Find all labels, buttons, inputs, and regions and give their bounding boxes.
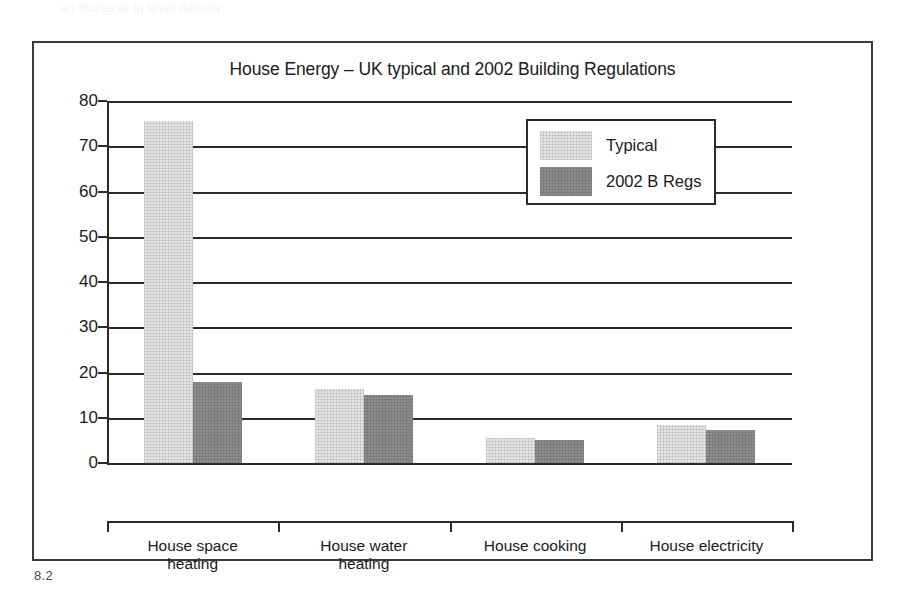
bar-3-typical (657, 425, 706, 463)
y-tick-label-40: 40 (58, 272, 98, 292)
figure-caption: 8.2 (34, 568, 53, 583)
x-tick-mark-2 (450, 521, 452, 532)
y-tick-mark-30 (98, 326, 107, 328)
page-top-text-fragment: an increase in level density (60, 0, 440, 14)
bar-0-typical (144, 121, 193, 463)
bar-0-regs (193, 382, 242, 463)
y-tick-mark-50 (98, 236, 107, 238)
y-tick-label-80: 80 (58, 91, 98, 111)
y-tick-label-20: 20 (58, 363, 98, 383)
y-tick-mark-10 (98, 417, 107, 419)
bar-3-regs (706, 430, 755, 463)
y-tick-label-0: 0 (58, 453, 98, 473)
bar-2-regs (535, 440, 584, 463)
y-tick-mark-60 (98, 191, 107, 193)
bar-2-typical (486, 438, 535, 463)
x-category-label-2: House cooking (450, 537, 621, 555)
y-tick-label-60: 60 (58, 182, 98, 202)
legend-item-typical: Typical (540, 131, 657, 160)
y-tick-label-30: 30 (58, 317, 98, 337)
x-tick-mark-4 (792, 521, 794, 532)
legend-item-2002-b-regs: 2002 B Regs (540, 167, 701, 196)
bar-1-typical (315, 389, 364, 463)
x-tick-mark-0 (107, 521, 109, 532)
x-category-label-0: House spaceheating (107, 537, 278, 573)
legend-swatch-typical (540, 131, 592, 160)
y-tick-label-50: 50 (58, 227, 98, 247)
gridline-0 (107, 463, 792, 465)
chart-legend: Typical 2002 B Regs (526, 119, 716, 205)
y-tick-mark-40 (98, 281, 107, 283)
y-tick-label-10: 10 (58, 408, 98, 428)
y-tick-mark-80 (98, 100, 107, 102)
y-tick-mark-0 (98, 462, 107, 464)
y-tick-label-70: 70 (58, 136, 98, 156)
y-tick-mark-20 (98, 372, 107, 374)
chart-title: House Energy – UK typical and 2002 Build… (34, 59, 871, 80)
bar-1-regs (364, 395, 413, 463)
y-axis-tick-labels: 01020304050607080 (50, 101, 98, 463)
x-tick-mark-3 (621, 521, 623, 532)
x-tick-mark-1 (278, 521, 280, 532)
legend-label-typical: Typical (606, 136, 657, 155)
y-tick-mark-70 (98, 145, 107, 147)
x-category-label-3: House electricity (621, 537, 792, 555)
x-category-label-1: House waterheating (278, 537, 449, 573)
legend-swatch-2002-b-regs (540, 167, 592, 196)
legend-label-2002-b-regs: 2002 B Regs (606, 172, 701, 191)
figure-frame: House Energy – UK typical and 2002 Build… (32, 41, 873, 561)
